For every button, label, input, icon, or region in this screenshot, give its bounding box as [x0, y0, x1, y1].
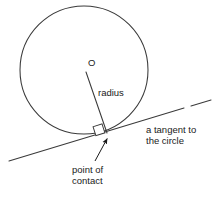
- contact-label-line-2: contact: [72, 175, 103, 186]
- tangent-label-line-1: a tangent to: [146, 124, 196, 135]
- point-of-contact-label: point of contact: [72, 164, 103, 186]
- tangent-label: a tangent to the circle: [146, 124, 196, 146]
- contact-leader-arrow-icon: [95, 139, 107, 162]
- circle-shape: [20, 6, 148, 134]
- circle-center-label: O: [88, 57, 95, 68]
- diagram-canvas: O radius a tangent to the circle point o…: [0, 0, 217, 201]
- tangent-circle-figure: [0, 0, 217, 201]
- right-angle-marker-icon: [93, 124, 105, 136]
- tangent-label-line-2: the circle: [146, 135, 196, 146]
- radius-label: radius: [98, 87, 124, 98]
- tangent-line-dashed-tip: [191, 100, 211, 106]
- radius-line: [86, 72, 107, 133]
- contact-label-line-1: point of: [72, 164, 103, 175]
